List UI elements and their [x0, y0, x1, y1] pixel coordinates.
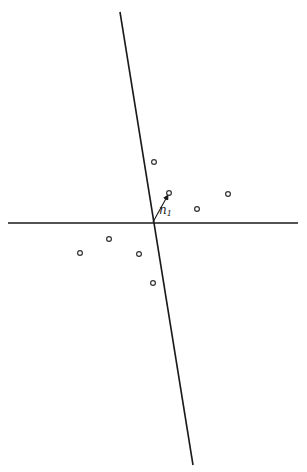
data-point-circle: [167, 191, 172, 196]
data-point-circle: [78, 251, 83, 256]
separating-line: [120, 12, 193, 465]
data-point-circle: [107, 237, 112, 242]
data-point-circle: [226, 192, 231, 197]
diagram-canvas: n1: [0, 0, 307, 472]
vector-label-letter: n: [159, 203, 167, 217]
data-point-circle: [151, 281, 156, 286]
vector-label-n1: n1: [159, 203, 172, 218]
vector-label-subscript: 1: [167, 209, 172, 218]
data-point-circle: [195, 207, 200, 212]
data-point-circle: [137, 252, 142, 257]
data-point-circle: [152, 160, 157, 165]
